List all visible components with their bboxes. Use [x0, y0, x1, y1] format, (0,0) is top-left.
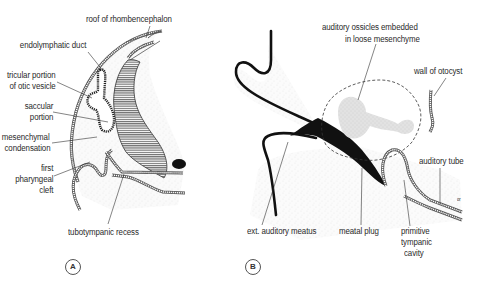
- label-roof-of-rhombencephalon: roof of rhombencephalon: [86, 14, 172, 25]
- label-saccular-portion-line1: saccular: [24, 101, 53, 112]
- label-first-pharyngeal-cleft-line3: cleft: [39, 185, 53, 196]
- label-saccular-portion-line2: portion: [29, 112, 53, 123]
- panel-a-tag: A: [65, 259, 81, 275]
- label-meatal-plug: meatal plug: [339, 226, 379, 237]
- label-utricular-portion-line2: of otic vesicle: [10, 81, 56, 92]
- label-mesenchymal-condensation-line2: condensation: [4, 143, 50, 154]
- label-wall-of-otocyst: wall of otocyst: [414, 66, 462, 77]
- label-first-pharyngeal-cleft-line1: first: [41, 163, 53, 174]
- panel-a-drawing: [52, 26, 186, 224]
- label-ext-auditory-meatus: ext. auditory meatus: [247, 226, 316, 237]
- label-utricular-portion-line1: tricular portion: [7, 70, 56, 81]
- label-primitive-tympanic-cavity-line2: tympanic: [401, 237, 432, 248]
- label-tiny-mark: or: [457, 194, 461, 205]
- label-primitive-tympanic-cavity-line1: primitive: [401, 226, 430, 237]
- label-endolymphatic-duct: endolymphatic duct: [19, 40, 86, 51]
- label-tubotympanic-recess: tubotympanic recess: [68, 227, 139, 238]
- panel-b-drawing: [234, 31, 462, 240]
- label-mesenchymal-condensation-line1: mesenchymal: [2, 132, 50, 143]
- label-auditory-tube: auditory tube: [419, 156, 464, 167]
- label-auditory-ossicles-line1: auditory ossicles embedded: [322, 22, 418, 33]
- panel-b-tag: B: [245, 259, 261, 275]
- label-auditory-ossicles-line2: in loose mesenchyme: [345, 34, 420, 45]
- label-primitive-tympanic-cavity-line3: cavity: [404, 248, 424, 259]
- label-first-pharyngeal-cleft-line2: pharyngeal: [15, 174, 53, 185]
